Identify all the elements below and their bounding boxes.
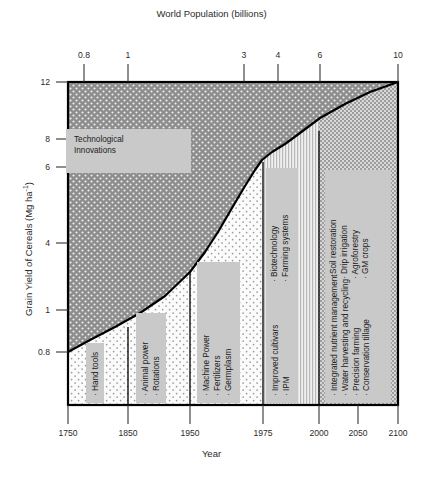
era-box-1750-1850: · Hand tools — [86, 343, 104, 403]
era-box-1850-1950: · Animal power · Rotations — [136, 313, 166, 403]
bottom-tick-label-4: 2000 — [309, 428, 328, 438]
left-axis-ticks — [56, 82, 68, 352]
era-box-1975-2000-upper: · Biotechnology · Farming systems — [270, 172, 296, 282]
banner-line-0: Technological — [74, 135, 183, 146]
era-2000-2100-upper-item-2: · Agroforestry — [351, 174, 362, 279]
bottom-tick-label-3: 1975 — [253, 428, 272, 438]
bottom-axis-ticks — [68, 405, 398, 424]
left-tick-label-4: 1 — [22, 305, 50, 315]
era-2000-2100-upper-item-3: · GM crops — [361, 174, 372, 279]
era-1850-1950-item-1: · Rotations — [152, 320, 163, 396]
top-tick-label-1: 1 — [126, 50, 131, 60]
left-tick-label-3: 4 — [22, 238, 50, 248]
top-axis-ticks — [84, 64, 398, 82]
bottom-tick-label-5: 2050 — [348, 428, 367, 438]
era-1950-1975-item-1: · Fertilizers — [213, 269, 224, 396]
left-tick-label-2: 6 — [22, 162, 50, 172]
era-box-1950-1975: · Machine Power · Fertilizers · Germplas… — [197, 262, 240, 403]
top-tick-label-5: 10 — [393, 50, 403, 60]
figure-root: World Population (billions) Year Grain Y… — [0, 0, 423, 481]
bottom-tick-label-1: 1850 — [118, 428, 137, 438]
era-1850-1950-item-0: · Animal power — [141, 320, 152, 396]
era-2000-2100-upper-item-0: · Soil restoration — [329, 174, 340, 279]
top-tick-label-3: 4 — [276, 50, 281, 60]
era-box-2000-2100-upper: · Soil restoration · Drip irrigation · A… — [329, 174, 387, 279]
bottom-tick-label-2: 1950 — [180, 428, 199, 438]
bottom-tick-label-6: 2100 — [388, 428, 407, 438]
left-tick-label-0: 12 — [22, 77, 50, 87]
bottom-tick-label-0: 1750 — [58, 428, 77, 438]
era-1975-2000-upper-item-0: · Biotechnology — [270, 172, 281, 282]
top-tick-label-4: 6 — [318, 50, 323, 60]
top-tick-label-2: 3 — [242, 50, 247, 60]
left-tick-label-5: 0.8 — [22, 347, 50, 357]
era-2000-2100-upper-item-1: · Drip irrigation — [340, 174, 351, 279]
era-1750-1850-item-0: · Hand tools — [91, 350, 102, 396]
era-1950-1975-item-2: · Germplasm — [224, 269, 235, 396]
era-1975-2000-upper-item-1: · Farming systems — [281, 172, 292, 282]
top-tick-label-0: 0.8 — [78, 50, 90, 60]
banner-line-1: Innovations — [74, 146, 183, 157]
left-tick-label-1: 8 — [22, 134, 50, 144]
technological-innovations-banner: Technological Innovations — [66, 129, 191, 173]
era-1950-1975-item-0: · Machine Power — [202, 269, 213, 396]
